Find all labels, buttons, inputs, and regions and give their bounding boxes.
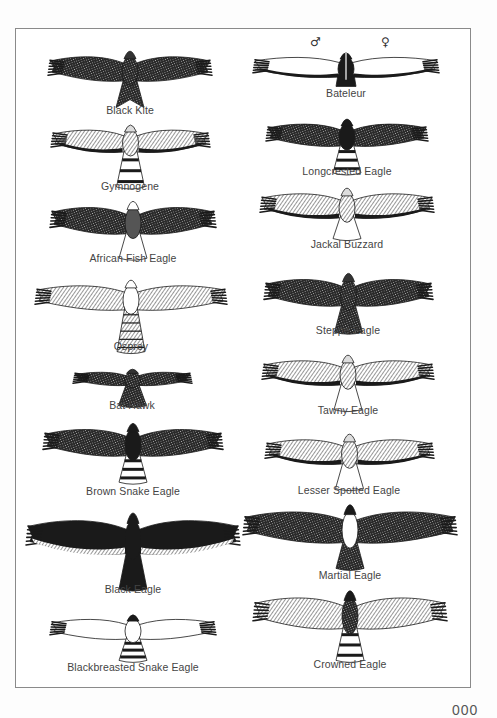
bird-silhouette-icon [42,0,224,710]
bird-caption: Crowned Eagle [245,658,455,670]
male-symbol-icon: ♂ [310,35,321,49]
page-number: 000 [452,702,478,718]
female-symbol-icon: ♀ [381,35,390,49]
bird-caption: Blackbreasted Snake Eagle [42,661,224,673]
bird-silhouette-icon [245,0,455,710]
